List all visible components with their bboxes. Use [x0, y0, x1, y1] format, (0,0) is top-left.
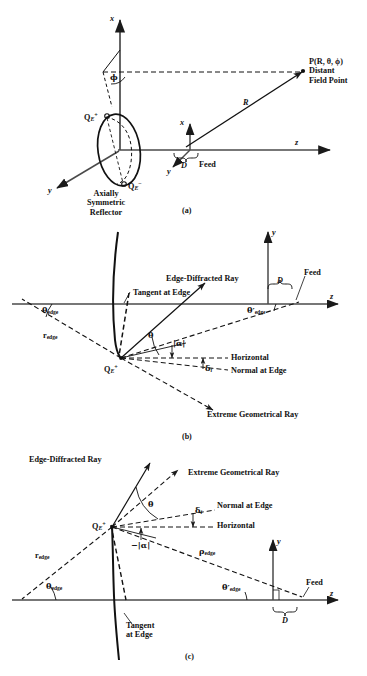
panel-a-feed-x-axis-label: x: [180, 118, 184, 127]
panel-c-right-angle-tick: [273, 590, 279, 600]
panel-b-tangent-at-edge-label: Tangent at Edge: [133, 288, 190, 297]
panel-c-extreme-geometrical-ray-label: Extreme Geometrical Ray: [188, 468, 279, 477]
panel-c-z-axis-label: z: [330, 589, 333, 598]
panel-c-extreme-geometrical-ray: [112, 470, 178, 527]
panel-b-extreme-geometrical-ray-label: Extreme Geometrical Ray: [207, 410, 298, 419]
panel-c-r-edge-line: [22, 527, 112, 599]
panel-c-feed-label: Feed: [306, 578, 323, 587]
panel-a-phi-label: ϕ: [110, 73, 118, 82]
panel-c-edge-point-label: QE+: [92, 519, 106, 533]
panel-a-graphics: [57, 20, 330, 189]
panel-b-caption: (b): [182, 432, 192, 441]
panel-b-z-axis-label: z: [330, 292, 333, 301]
panel-c-feed-leader: [303, 587, 309, 597]
panel-c-theta-prime-edge-label: θ′edge: [222, 583, 241, 595]
panel-a-field-point-label: P(R, θ, ϕ) Distant Field Point: [309, 57, 347, 85]
panel-b-r-edge-label: redge: [43, 331, 58, 343]
panel-a-field-point-dot: [301, 69, 305, 73]
panel-a-x-axis-label: x: [110, 14, 114, 23]
panel-a-edge-plus-label: QE+: [84, 110, 98, 124]
panel-a-z-axis-label: z: [295, 138, 298, 147]
panel-c-aperture-label: D: [282, 616, 288, 625]
panel-b-theta-prime-edge-label: θ′edge: [247, 306, 266, 318]
panel-c-theta-edge-label: θedge: [46, 582, 62, 594]
panel-a-feed-label: Feed: [199, 160, 216, 169]
panel-c-caption: (c): [185, 652, 194, 661]
panel-b-theta-edge-label: θedge: [42, 306, 58, 318]
panel-c-rho-edge-label: ρedge: [199, 547, 215, 559]
panel-a-feed-y-axis-label: y: [167, 167, 171, 176]
panel-a-range-label: R: [243, 98, 248, 107]
panel-a-y-axis-label: y: [48, 186, 52, 195]
panel-b-y-axis-label: y: [272, 228, 276, 237]
panel-a-phi-leg-upper: [103, 50, 120, 72]
panel-b-horizontal-label: Horizontal: [231, 353, 269, 362]
panel-b-normal-at-edge-label: Normal at Edge: [231, 366, 287, 375]
panel-c-edge-diffracted-ray: [112, 463, 150, 527]
panel-a-aperture-label: D: [181, 161, 187, 170]
panel-c-neg-alpha-label: −|α|: [131, 541, 150, 550]
panel-b-r-edge-line: [22, 299, 121, 358]
panel-c-y-axis-label: y: [277, 537, 281, 546]
panel-b-extreme-geometrical-ray: [121, 358, 213, 410]
panel-c-edge-diffracted-ray-label: Edge-Diffracted Ray: [29, 455, 102, 464]
panel-c-horizontal-label: Horizontal: [217, 521, 255, 530]
panel-c-alpha-ray: [112, 527, 156, 538]
panel-c-delta-label: δi: [195, 506, 202, 518]
panel-b-delta-label: δi: [205, 364, 212, 376]
panel-b-edge-diffracted-ray-label: Edge-Diffracted Ray: [166, 274, 239, 283]
panel-b-edge-point-label: QE+: [104, 362, 118, 376]
panel-a-reflector-label: Axially Symmetric Reflector: [74, 189, 138, 217]
panel-b-graphics: [12, 232, 338, 410]
panel-b-theta-label: θ: [148, 331, 153, 340]
panel-c-normal-at-edge-label: Normal at Edge: [217, 501, 273, 510]
panel-c-theta-prime-edge-arc: [245, 592, 247, 600]
panel-a-range-ray: [186, 72, 302, 147]
panel-c-reflector-profile: [112, 526, 119, 660]
panel-b-feed-leader: [296, 276, 305, 300]
panel-b-feed-label: Feed: [304, 268, 321, 277]
panel-b-aperture-label: D: [277, 276, 283, 285]
panel-c-theta-label: θ: [148, 500, 153, 509]
panel-b-alpha-label: |α|: [173, 339, 185, 348]
panel-a-y-axis: [57, 151, 119, 188]
page-bottom-clipped-text: [0, 668, 367, 676]
panel-a-caption: (a): [182, 206, 191, 215]
panel-b-reflector-profile: [113, 232, 120, 357]
panel-c-aperture-brace: [273, 607, 297, 616]
panel-c-r-edge-label: redge: [35, 551, 50, 563]
panel-c-tangent-label: Tangent at Edge: [126, 621, 178, 640]
